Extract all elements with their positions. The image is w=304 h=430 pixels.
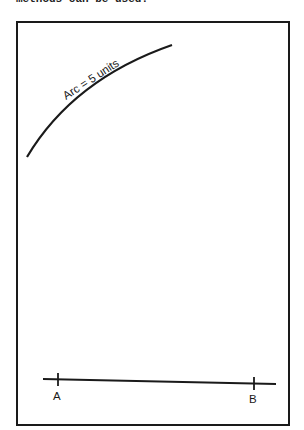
line-segment-ab <box>43 379 276 384</box>
diagram-canvas: Arc = 5 units A B <box>0 0 304 430</box>
arc-curve <box>27 45 172 157</box>
arc-label: Arc = 5 units <box>61 56 122 101</box>
point-label-b: B <box>249 393 257 405</box>
point-label-a: A <box>53 390 61 402</box>
